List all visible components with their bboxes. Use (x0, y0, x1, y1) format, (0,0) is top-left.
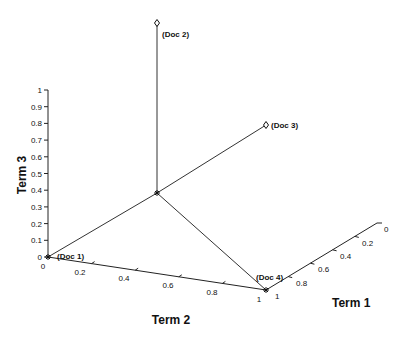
term3-axis-title: Term 3 (15, 155, 29, 194)
term2-tick: 0.2 (74, 268, 86, 277)
term1-tick: 0.6 (318, 265, 330, 274)
term1-axis-title: Term 1 (332, 296, 371, 310)
term3-tick: 1 (38, 86, 43, 95)
term3-tick: 0.3 (31, 203, 43, 212)
term3-tick: 0.8 (31, 119, 43, 128)
term2-tick: 0 (41, 262, 46, 271)
term1-tick: 0.4 (340, 252, 352, 261)
term1-tick: 0 (384, 225, 389, 234)
term3-tick: 0.4 (31, 186, 43, 195)
line-doc3 (157, 125, 266, 193)
doc2-label: (Doc 2) (162, 30, 189, 39)
term3-tick: 0.9 (31, 103, 43, 112)
line-doc4 (157, 193, 266, 290)
doc2-marker (155, 20, 160, 27)
term3-tick: 0.5 (31, 170, 43, 179)
document-lines (48, 23, 266, 290)
term1-axis (266, 223, 382, 290)
term1-tick: 0.2 (362, 239, 374, 248)
doc4-label: (Doc 4) (256, 273, 283, 282)
term2-tick: 0.8 (206, 288, 218, 297)
doc1-marker (45, 254, 51, 260)
term3-tick: 0.7 (31, 136, 43, 145)
term3-tick-labels: 0 0.1 0.2 0.3 0.4 0.5 0.6 0.7 0.8 0.9 1 (31, 86, 43, 262)
term2-tick-labels: 0 0.2 0.4 0.6 0.8 1 (41, 262, 262, 304)
term2-tick: 1 (257, 295, 262, 304)
doc3-marker (264, 122, 269, 129)
term1-tick: 1 (275, 292, 280, 301)
term3-axis (44, 90, 48, 257)
term1-tick: 0.8 (296, 279, 308, 288)
line-doc1 (48, 193, 157, 257)
term3-tick: 0 (38, 253, 43, 262)
term2-tick: 0.4 (118, 274, 130, 283)
term3-tick: 0.2 (31, 220, 43, 229)
term3-tick: 0.6 (31, 153, 43, 162)
3d-line-plot: 0 0.1 0.2 0.3 0.4 0.5 0.6 0.7 0.8 0.9 1 … (0, 0, 408, 339)
doc3-label: (Doc 3) (271, 121, 298, 130)
term2-tick: 0.6 (162, 281, 174, 290)
term3-tick: 0.1 (31, 236, 43, 245)
term2-axis-title: Term 2 (152, 313, 191, 327)
term1-tick-labels: 0 0.2 0.4 0.6 0.8 1 (275, 225, 389, 301)
doc1-label: (Doc 1) (57, 252, 84, 261)
